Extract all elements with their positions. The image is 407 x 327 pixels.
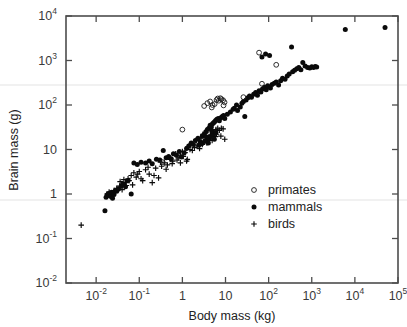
x-tick-label: 10-1 — [129, 286, 151, 303]
point-primates — [202, 104, 207, 109]
point-birds — [146, 171, 152, 177]
y-axis-title: Brain mass (g) — [7, 109, 21, 190]
point-birds — [78, 222, 84, 228]
legend-marker-birds — [251, 221, 257, 227]
x-tick-label: 1 — [179, 289, 186, 303]
point-mammals — [276, 83, 281, 88]
point-mammals — [222, 116, 227, 121]
y-tick-label: 102 — [38, 95, 57, 112]
data-points — [78, 25, 387, 228]
point-mammals — [169, 156, 174, 161]
point-mammals — [239, 101, 244, 106]
brain-body-mass-scatter-figure: 10-210-111010210310410510410310210110-11… — [0, 0, 407, 327]
point-mammals — [314, 65, 319, 70]
point-birds — [178, 160, 184, 166]
point-primates — [257, 50, 262, 55]
point-birds — [153, 165, 159, 171]
point-primates — [274, 62, 279, 67]
point-birds — [149, 180, 155, 186]
series-mammals — [102, 25, 387, 213]
x-tick-label: 10 — [219, 289, 233, 303]
point-mammals — [212, 137, 217, 142]
point-mammals — [139, 160, 144, 165]
point-mammals — [161, 148, 166, 153]
x-tick-label: 10-2 — [85, 286, 107, 303]
legend-marker-primates — [252, 188, 257, 193]
point-mammals — [177, 149, 182, 154]
point-mammals — [150, 161, 155, 166]
point-birds — [130, 182, 136, 188]
y-tick-label: 10 — [43, 143, 57, 157]
tick-labels: 10-210-111010210310410510410310210110-11… — [36, 6, 407, 303]
y-tick-label: 104 — [38, 6, 57, 23]
point-mammals — [343, 27, 348, 32]
legend-marker-mammals — [252, 205, 257, 210]
chart-legend: primatesmammalsbirds — [251, 183, 322, 231]
point-mammals — [202, 139, 207, 144]
x-tick-label: 103 — [302, 286, 321, 303]
x-tick-label: 105 — [389, 286, 407, 303]
y-tick-label: 10-1 — [36, 229, 58, 246]
point-birds — [222, 136, 228, 142]
axis-ticks — [66, 16, 398, 283]
x-tick-label: 104 — [346, 286, 365, 303]
point-primates — [180, 127, 185, 132]
point-mammals — [263, 51, 268, 56]
point-mammals — [242, 114, 247, 119]
point-mammals — [126, 178, 131, 183]
point-mammals — [231, 107, 236, 112]
x-axis-title: Body mass (kg) — [189, 309, 276, 323]
y-tick-label: 1 — [50, 187, 57, 201]
y-tick-label: 103 — [38, 51, 57, 68]
point-mammals — [123, 184, 128, 189]
point-birds — [128, 173, 134, 179]
legend-label-primates: primates — [268, 183, 316, 197]
point-mammals — [102, 208, 107, 213]
chart-canvas: 10-210-111010210310410510410310210110-11… — [0, 0, 407, 327]
y-tick-label: 10-2 — [36, 273, 58, 290]
point-mammals — [234, 103, 239, 108]
point-primates — [221, 103, 226, 108]
point-mammals — [213, 130, 218, 135]
legend-label-mammals: mammals — [268, 200, 322, 214]
point-birds — [163, 166, 169, 172]
legend-label-birds: birds — [268, 217, 295, 231]
point-mammals — [179, 154, 184, 159]
point-mammals — [289, 45, 294, 50]
point-mammals — [196, 143, 201, 148]
point-mammals — [383, 25, 388, 30]
series-primates — [160, 50, 278, 164]
plot-frame — [66, 16, 398, 283]
point-mammals — [129, 192, 134, 197]
point-mammals — [298, 67, 303, 72]
x-tick-label: 102 — [259, 286, 278, 303]
point-primates — [241, 95, 246, 100]
